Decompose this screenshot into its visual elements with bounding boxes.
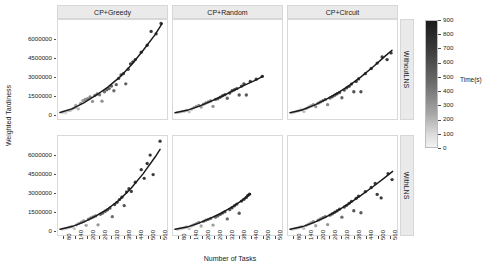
x-tick-mark [178,236,179,239]
panel-plot-area [288,20,397,119]
data-point [226,97,229,100]
x-tick-mark [239,236,240,239]
data-point [112,89,115,92]
x-tick-mark [124,236,125,239]
data-point [130,190,133,193]
colorbar-tick-label: 500 [443,74,453,80]
colorbar-tick-label: 400 [443,88,453,94]
x-tick-mark [111,236,112,239]
x-tick-mark [136,236,137,239]
x-tick-label: 260 [102,230,108,240]
x-tick-label: 320 [114,230,120,240]
x-tick-mark [214,236,215,239]
data-point [211,105,214,108]
x-tick-mark [366,236,367,239]
colorbar-tick-label: 600 [443,59,453,65]
chart-root: Weighted Tardiness Number of Tasks CP+Gr… [0,0,504,272]
data-point [314,224,317,227]
data-point [340,96,343,99]
x-tick-label: 380 [241,230,247,240]
x-tick-mark [160,236,161,239]
y-tick-label: 4500000 [6,171,52,177]
data-point [149,30,152,33]
colorbar-tick-label: 200 [443,116,453,122]
data-point [352,90,355,93]
data-point [359,211,362,214]
facet-col-label-2: CP+Circuit [326,9,360,16]
x-tick-label: 500 [265,230,271,240]
x-tick-mark [63,236,64,239]
y-tick-mark [54,115,57,116]
data-point [326,103,329,106]
data-point [146,162,149,165]
data-point [151,173,154,176]
panel-plot-area [173,20,282,119]
x-tick-label: 140 [193,230,199,240]
x-tick-label: 440 [253,230,259,240]
y-tick-label: 6000000 [6,152,52,158]
colorbar-tick-mark [438,105,441,106]
x-tick-mark [275,236,276,239]
data-point [238,212,241,215]
x-tick-label: 560 [162,230,168,240]
data-point [245,93,248,96]
fit-line [290,50,392,112]
colorbar-title: Time(s) [460,76,482,83]
facet-row-label-1: WithLNS [404,172,411,200]
facet-row-strip-0: WithoutLNS [400,19,414,120]
x-tick-label: 560 [277,230,283,240]
colorbar-tick-label: 300 [443,102,453,108]
x-tick-mark [251,236,252,239]
colorbar-tick-mark [438,20,441,21]
facet-col-label-1: CP+Random [207,9,247,16]
data-point [84,224,87,227]
x-tick-label: 80 [296,233,302,240]
colorbar-tick-label: 0 [443,145,446,151]
data-point [77,107,80,110]
data-point [188,227,191,230]
panel-withlns-cp-greedy [57,135,168,236]
data-point [158,140,161,143]
data-point [376,193,379,196]
panel-withoutlns-cp-circuit [287,19,398,120]
facet-col-label-0: CP+Greedy [94,9,131,16]
colorbar-tick-mark [438,48,441,49]
data-point [326,223,329,226]
data-point [140,168,143,171]
panel-withoutlns-cp-greedy [57,19,168,120]
y-tick-label: 4500000 [6,55,52,61]
colorbar-tick-mark [438,77,441,78]
y-tick-label: 0 [6,112,52,118]
y-tick-mark [54,231,57,232]
data-point [379,196,382,199]
x-tick-mark [202,236,203,239]
x-tick-mark [378,236,379,239]
y-tick-mark [54,193,57,194]
x-tick-label: 80 [66,233,72,240]
colorbar-tick-mark [438,91,441,92]
data-point [111,215,114,218]
x-tick-label: 80 [181,233,187,240]
y-tick-mark [54,58,57,59]
panel-plot-area [58,20,167,119]
panel-withlns-cp-random [172,135,283,236]
x-tick-label: 440 [368,230,374,240]
y-tick-label: 3000000 [6,190,52,196]
facet-col-strip-1: CP+Random [172,5,283,19]
fit-line [290,171,393,229]
panel-plot-area [58,136,167,235]
x-tick-mark [293,236,294,239]
y-tick-label: 1500000 [6,209,52,215]
x-tick-label: 500 [150,230,156,240]
colorbar-tick-mark [438,63,441,64]
x-tick-mark [263,236,264,239]
colorbar-tick-mark [438,134,441,135]
data-point [123,204,126,207]
x-tick-label: 200 [205,230,211,240]
x-tick-label: 260 [332,230,338,240]
panel-plot-area [288,136,397,235]
colorbar-tick-mark [438,148,441,149]
x-tick-label: 140 [308,230,314,240]
x-tick-label: 380 [126,230,132,240]
x-tick-mark [341,236,342,239]
